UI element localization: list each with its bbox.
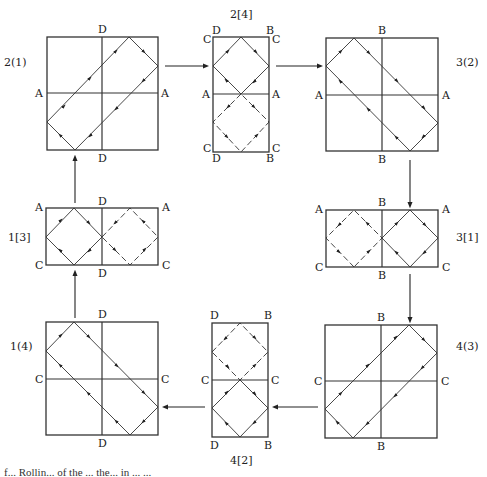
corner-label-bottom-left: C <box>35 259 43 272</box>
figure-caption: f... Rollin... of the ... the... in ... … <box>4 466 151 477</box>
edge-label-right: A <box>441 89 451 102</box>
corner-label-top-left: A <box>314 203 324 216</box>
panel-label: 4(3) <box>456 340 479 353</box>
edge-label-top: B <box>377 311 385 324</box>
orbit-diagram: .box { fill: none; stroke: #333; stroke-… <box>0 0 487 477</box>
corner-label-bottom-right: C <box>442 261 450 274</box>
panel-4-3: 4(3) B B C C <box>314 311 479 453</box>
corner-label-top-right: B <box>264 309 272 322</box>
edge-label-right: A <box>160 87 170 100</box>
corner-label-top-left-outer: D <box>212 24 221 37</box>
panel-label: 2[4] <box>230 8 253 21</box>
panel-3-1: 3[1] A A C C B B <box>314 196 479 282</box>
panel-label: 3[1] <box>456 231 479 244</box>
edge-label-left: A <box>34 87 44 100</box>
corner-label-top-right: A <box>441 203 451 216</box>
corner-label-bottom-left: D <box>210 439 219 452</box>
panel-1-4: 1(4) D D C C <box>10 308 169 450</box>
edge-label-left: C <box>201 374 209 387</box>
edge-label-top: D <box>98 308 107 321</box>
panel-label: 1(4) <box>10 340 33 353</box>
edge-label-left: C <box>314 375 322 388</box>
edge-label-right: C <box>441 375 449 388</box>
edge-label-right: A <box>271 88 281 101</box>
edge-label-top: D <box>98 23 107 36</box>
edge-label-left: A <box>201 88 211 101</box>
edge-label-bottom: D <box>98 267 107 280</box>
edge-label-left: A <box>314 89 324 102</box>
edge-label-top: B <box>378 24 386 37</box>
corner-label-bottom-left: C <box>315 261 323 274</box>
corner-label-bottom-right: C <box>162 259 170 272</box>
panel-3-2: 3(2) B B A A <box>314 24 479 166</box>
corner-label-bottom-left-outer: D <box>212 152 221 165</box>
corner-label-top-right: A <box>161 201 171 214</box>
panel-2-4: 2[4] D C B C C D C B A A <box>201 8 281 165</box>
edge-label-right: C <box>161 373 169 386</box>
edge-label-right: C <box>271 374 279 387</box>
panel-label: 3(2) <box>456 56 479 69</box>
corner-label-top-right-side: C <box>272 33 280 46</box>
edge-label-bottom: D <box>98 152 107 165</box>
panel-label: 1[3] <box>8 231 31 244</box>
edge-label-bottom: B <box>378 153 386 166</box>
edge-label-top: B <box>378 196 386 209</box>
corner-label-top-left: A <box>34 201 44 214</box>
panel-4-2: 4[2] D B D B C C <box>201 309 279 467</box>
corner-label-top-left-side: C <box>203 33 211 46</box>
corner-label-bottom-right: B <box>264 439 272 452</box>
corner-label-bottom-right-outer: B <box>266 152 274 165</box>
corner-label-top-left: D <box>210 309 219 322</box>
flow-arrows <box>75 66 410 407</box>
panel-label: 4[2] <box>230 454 253 467</box>
edge-label-bottom: B <box>377 440 385 453</box>
corner-label-bottom-left-side: C <box>203 142 211 155</box>
edge-label-bottom: D <box>98 437 107 450</box>
panel-2-1: 2(1) D D A A <box>4 23 170 165</box>
edge-label-top: D <box>98 195 107 208</box>
edge-label-bottom: B <box>378 269 386 282</box>
panel-label: 2(1) <box>4 56 27 69</box>
panel-1-3: 1[3] A A C C D D <box>8 195 171 280</box>
edge-label-left: C <box>35 373 43 386</box>
